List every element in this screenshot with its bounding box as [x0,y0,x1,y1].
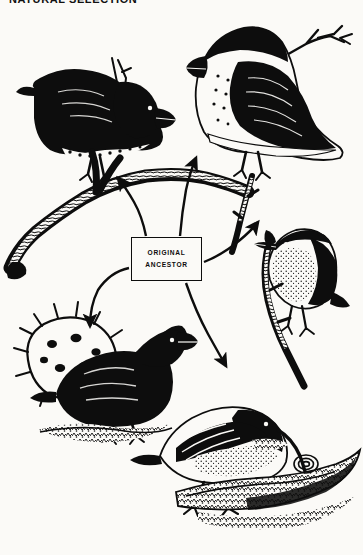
original-ancestor-label-box: ORIGINAL ANCESTOR [131,237,202,281]
arrow-to-middle-right [204,222,258,262]
arrow-to-bottom-left [90,268,129,326]
ancestor-label-line-2: ANCESTOR [145,259,187,271]
ancestor-label-line-1: ORIGINAL [148,247,186,259]
page-canvas: NATURAL SELECTION [0,0,363,555]
branch-upper-left [7,152,248,279]
bird-large-cactus-finch [186,26,352,180]
arrow-to-bottom-right [186,283,226,366]
